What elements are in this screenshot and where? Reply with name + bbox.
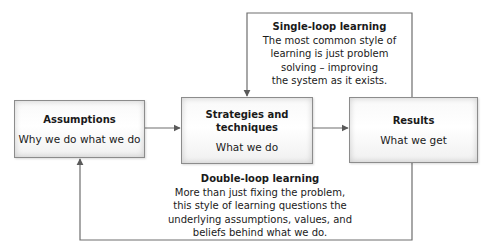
strategies-title-line2: techniques — [216, 121, 278, 134]
single-loop-note: Single-loop learning The most common sty… — [252, 20, 407, 88]
strategies-box: Strategies and techniques What we do — [181, 97, 313, 164]
double-loop-title: Double-loop learning — [140, 172, 380, 186]
double-loop-text-line: beliefs behind what we do. — [140, 226, 380, 240]
assumptions-subtitle: Why we do what we do — [18, 133, 140, 146]
single-loop-text-line: the system as it exists. — [252, 74, 407, 88]
assumptions-title: Assumptions — [43, 113, 116, 126]
single-loop-text-line: solving – improving — [252, 61, 407, 75]
single-loop-text-line: The most common style of — [252, 34, 407, 48]
double-loop-text-line: underlying assumptions, values, and — [140, 213, 380, 227]
assumptions-box: Assumptions Why we do what we do — [14, 100, 145, 158]
double-loop-note: Double-loop learning More than just fixi… — [140, 172, 380, 240]
single-loop-text-line: learning is just problem — [252, 47, 407, 61]
single-loop-title: Single-loop learning — [252, 20, 407, 34]
results-title: Results — [393, 114, 435, 127]
results-subtitle: What we get — [380, 134, 447, 147]
strategies-subtitle: What we do — [216, 141, 278, 154]
double-loop-text-line: this style of learning questions the — [140, 199, 380, 213]
strategies-title-line1: Strategies and — [205, 108, 288, 121]
double-loop-text-line: More than just fixing the problem, — [140, 186, 380, 200]
results-box: Results What we get — [349, 97, 478, 163]
